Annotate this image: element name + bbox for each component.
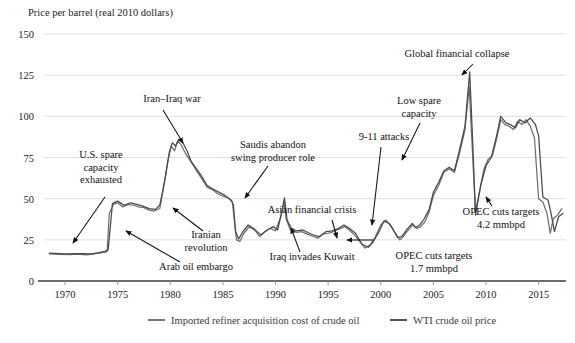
annotation-arrow-nine-eleven-attacks bbox=[372, 147, 381, 225]
annotation-label-us-spare-capacity: U.S. spare bbox=[79, 149, 123, 160]
annotation-label-global-financial-collapse: Global financial collapse bbox=[405, 48, 510, 59]
annotation-nine-eleven-attacks: 9-11 attacks bbox=[359, 131, 410, 225]
annotation-iraq-invades-kuwait: Iraq invades Kuwait bbox=[269, 228, 354, 262]
annotation-label-opec-cuts-4-2: 4.2 mmbpd bbox=[477, 219, 526, 230]
y-tick-label-25: 25 bbox=[24, 235, 35, 246]
annotation-label-nine-eleven-attacks: 9-11 attacks bbox=[359, 131, 410, 142]
annotation-label-opec-cuts-4-2: OPEC cuts targets bbox=[463, 206, 540, 217]
annotation-opec-cuts-1-7: OPEC cuts targets1.7 mmbpd bbox=[347, 240, 472, 274]
annotation-arrow-global-financial-collapse bbox=[462, 64, 473, 75]
y-tick-label-0: 0 bbox=[29, 276, 34, 287]
annotation-iran-iraq-war: Iran–Iraq war bbox=[143, 93, 201, 143]
annotation-label-opec-cuts-1-7: OPEC cuts targets bbox=[396, 250, 473, 261]
annotation-global-financial-collapse: Global financial collapse bbox=[405, 48, 510, 75]
x-tick-label-1985: 1985 bbox=[212, 289, 233, 300]
annotation-label-iran-iraq-war: Iran–Iraq war bbox=[143, 93, 201, 104]
x-tick-label-1995: 1995 bbox=[318, 289, 339, 300]
chart-title-text: Price per barrel (real 2010 dollars) bbox=[28, 7, 173, 19]
annotation-label-iranian-revolution: revolution bbox=[184, 242, 228, 253]
chart-canvas: 0255075100125150 19701975198019851990199… bbox=[0, 0, 575, 343]
x-tick-label-2010: 2010 bbox=[476, 289, 497, 300]
annotation-label-saudis-abandon: swing producer role bbox=[231, 152, 315, 163]
annotation-us-spare-capacity: U.S. sparecapacityexhausted bbox=[73, 149, 123, 243]
x-tick-label-2005: 2005 bbox=[423, 289, 444, 300]
annotation-low-spare-capacity: Low sparecapacity bbox=[397, 95, 441, 160]
annotation-label-iraq-invades-kuwait: Iraq invades Kuwait bbox=[269, 251, 354, 262]
annotation-label-saudis-abandon: Saudis abandon bbox=[240, 139, 307, 150]
y-tick-label-150: 150 bbox=[18, 29, 34, 40]
annotation-asian-financial-crisis: Asian financial crisis bbox=[268, 204, 357, 238]
x-axis-tick-labels: 1970197519801985199019952000200520102015 bbox=[55, 289, 550, 300]
annotation-label-low-spare-capacity: capacity bbox=[402, 108, 438, 119]
annotation-arrow-arab-oil-embargo bbox=[126, 231, 180, 262]
x-tick-label-1970: 1970 bbox=[55, 289, 76, 300]
x-tick-label-2015: 2015 bbox=[528, 289, 549, 300]
y-tick-label-100: 100 bbox=[18, 111, 34, 122]
legend-label-1: WTI crude oil price bbox=[413, 315, 496, 326]
y-tick-label-125: 125 bbox=[18, 70, 34, 81]
annotation-label-arab-oil-embargo: Arab oil embargo bbox=[159, 261, 233, 272]
annotation-arrow-saudis-abandon bbox=[245, 166, 268, 198]
x-tick-label-1990: 1990 bbox=[265, 289, 286, 300]
annotation-iranian-revolution: Iranianrevolution bbox=[173, 208, 228, 253]
annotation-arrow-iran-iraq-war bbox=[163, 110, 183, 143]
y-tick-label-50: 50 bbox=[24, 194, 35, 205]
oil-price-chart: 0255075100125150 19701975198019851990199… bbox=[0, 0, 575, 343]
y-tick-label-75: 75 bbox=[24, 153, 35, 164]
axis-lines bbox=[38, 281, 566, 285]
annotation-label-opec-cuts-1-7: 1.7 mmbpd bbox=[410, 263, 459, 274]
legend-entry-0: Imported refiner acquisition cost of cru… bbox=[148, 315, 359, 326]
legend-entry-1: WTI crude oil price bbox=[390, 315, 496, 326]
annotation-saudis-abandon: Saudis abandonswing producer role bbox=[231, 139, 315, 198]
annotation-arrow-iranian-revolution bbox=[173, 208, 203, 231]
x-tick-label-1980: 1980 bbox=[160, 289, 181, 300]
y-axis-tick-labels: 0255075100125150 bbox=[18, 29, 34, 287]
annotation-arrow-us-spare-capacity bbox=[73, 197, 105, 243]
annotation-label-low-spare-capacity: Low spare bbox=[397, 95, 441, 106]
annotation-label-asian-financial-crisis: Asian financial crisis bbox=[268, 204, 357, 215]
chart-legend: Imported refiner acquisition cost of cru… bbox=[148, 315, 496, 326]
chart-title: Price per barrel (real 2010 dollars) bbox=[28, 7, 173, 19]
annotation-label-us-spare-capacity: capacity bbox=[84, 162, 120, 173]
annotation-label-us-spare-capacity: exhausted bbox=[80, 174, 123, 185]
legend-label-0: Imported refiner acquisition cost of cru… bbox=[171, 315, 359, 326]
annotation-opec-cuts-4-2: OPEC cuts targets4.2 mmbpd bbox=[463, 197, 540, 230]
annotation-label-iranian-revolution: Iranian bbox=[191, 229, 221, 240]
x-tick-label-1975: 1975 bbox=[107, 289, 128, 300]
x-tick-label-2000: 2000 bbox=[370, 289, 391, 300]
